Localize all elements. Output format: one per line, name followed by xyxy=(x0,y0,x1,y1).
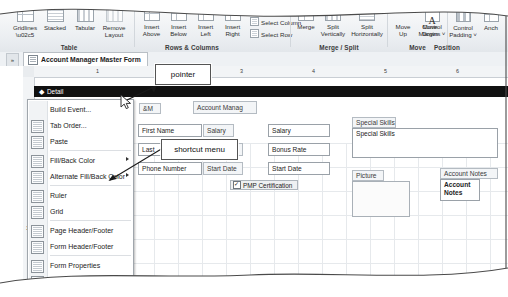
select-row-icon xyxy=(250,29,259,38)
select-layout-button[interactable]: Select Layout xyxy=(250,5,299,14)
context-menu-item-paste[interactable]: Paste xyxy=(28,133,133,149)
ribbon-separator xyxy=(387,5,388,47)
detail-section-label: Detail xyxy=(47,88,63,95)
submenu-arrow-icon xyxy=(126,173,129,177)
ribbon-separator xyxy=(447,5,448,47)
insert-left-icon xyxy=(198,9,214,21)
context-menu-separator xyxy=(50,150,131,151)
pmp-certification-checkbox[interactable]: PMP Certification xyxy=(230,180,298,190)
merge-icon xyxy=(298,9,314,21)
context-menu-item-page-header-footer[interactable]: Page Header/Footer xyxy=(28,222,133,238)
control-margins-icon: A xyxy=(425,9,440,22)
tab-order-icon xyxy=(31,120,44,133)
special-skills-label[interactable]: Special Skills xyxy=(352,117,396,128)
context-menu-item-grid[interactable]: Grid xyxy=(28,203,133,219)
page-header-footer-icon xyxy=(31,225,44,238)
gridlines-icon xyxy=(17,9,34,22)
context-menu-separator xyxy=(50,220,131,221)
paste-icon xyxy=(31,136,44,149)
control-margins-button[interactable]: A Control Margins ˅ xyxy=(417,9,447,37)
ribbon-group-rows-columns: Insert Above Insert Below Insert Left In… xyxy=(138,0,288,52)
split-vertically-button[interactable]: Split Vertically xyxy=(317,9,349,37)
remove-layout-button[interactable]: Remove Layout xyxy=(98,9,130,38)
insert-above-button[interactable]: Insert Above xyxy=(138,9,165,37)
horizontal-ruler[interactable]: 1 2 3 4 5 6 xyxy=(34,66,508,78)
insert-above-icon xyxy=(144,9,160,21)
insert-right-button[interactable]: Insert Right xyxy=(219,9,246,37)
control-padding-icon xyxy=(456,9,471,22)
mouse-pointer-icon xyxy=(120,94,134,110)
context-menu-item-tab-order[interactable]: Tab Order... xyxy=(28,117,133,133)
gridlines-dropdown-caret[interactable]: \u02c5 xyxy=(10,31,40,38)
select-layout-icon xyxy=(250,5,259,14)
fill-back-color-icon xyxy=(31,155,44,168)
form-design-icon xyxy=(28,55,38,65)
insert-below-button[interactable]: Insert Below xyxy=(165,9,192,37)
ribbon-group-title-merge-split: Merge / Split xyxy=(293,44,385,51)
context-menu-item-alternate-fill-back-color[interactable]: Alternate Fill/Back Color xyxy=(28,168,133,184)
account-notes-field[interactable]: Account Notes xyxy=(440,179,480,201)
bonus-rate-field[interactable]: Bonus Rate xyxy=(268,143,330,156)
ribbon-group-table: Gridlines \u02c5 Stacked Tabular Remove … xyxy=(8,0,130,52)
split-horizontally-button[interactable]: Split Horizontally xyxy=(348,9,386,37)
salary-field[interactable]: Salary xyxy=(268,124,330,137)
move-up-button[interactable]: Move Up xyxy=(390,9,416,37)
remove-layout-icon xyxy=(106,9,123,22)
form-header-footer-icon xyxy=(31,241,44,254)
ribbon-separator xyxy=(290,5,291,47)
detail-section-bar[interactable]: ◆ Detail xyxy=(34,86,508,97)
split-horizontally-icon xyxy=(359,9,375,21)
ribbon-arrange-tab: Gridlines \u02c5 Stacked Tabular Remove … xyxy=(0,0,508,52)
screenshot-root: Gridlines \u02c5 Stacked Tabular Remove … xyxy=(0,0,508,297)
shortcut-menu-callout: shortcut menu xyxy=(161,139,238,160)
insert-left-button[interactable]: Insert Left xyxy=(192,9,219,37)
context-menu-item-build-event[interactable]: Build Event... xyxy=(28,101,133,117)
ribbon-group-title-rows-columns: Rows & Columns xyxy=(138,44,246,51)
ribbon-separator xyxy=(134,5,135,47)
gridlines-button[interactable]: Gridlines \u02c5 xyxy=(10,9,40,38)
tabular-layout-icon xyxy=(77,9,94,22)
build-event-icon xyxy=(31,104,42,115)
context-menu-item-properties[interactable]: Properties xyxy=(28,273,133,289)
account-manager-id-label[interactable]: &M xyxy=(139,103,161,114)
account-notes-label[interactable]: Account Notes xyxy=(440,168,498,179)
first-name-label[interactable]: First Name xyxy=(138,124,202,137)
pmp-certification-label: PMP Certification xyxy=(243,182,292,189)
select-row-button[interactable]: Select Row xyxy=(250,29,292,38)
torn-paper-page: Gridlines \u02c5 Stacked Tabular Remove … xyxy=(0,0,508,297)
properties-icon xyxy=(31,276,44,289)
ruler-icon xyxy=(31,190,44,203)
split-vertically-icon xyxy=(325,9,341,21)
grid-icon xyxy=(31,206,44,219)
ribbon-group-title-position: Position xyxy=(417,44,477,51)
context-menu-item-form-header-footer[interactable]: Form Header/Footer xyxy=(28,238,133,254)
stacked-layout-icon xyxy=(47,9,64,22)
merge-button[interactable]: Merge xyxy=(293,9,319,30)
stacked-layout-button[interactable]: Stacked xyxy=(40,9,70,31)
document-tab-label: Account Manager Master Form xyxy=(41,56,141,63)
control-padding-button[interactable]: Control Padding ˅ xyxy=(449,9,477,38)
picture-frame[interactable] xyxy=(352,181,410,217)
start-date-label[interactable]: Start Date xyxy=(203,162,243,175)
anchoring-icon xyxy=(484,9,499,22)
account-manager-title-label[interactable]: Account Manag xyxy=(193,101,257,114)
context-menu-item-ruler[interactable]: Ruler xyxy=(28,187,133,203)
shutter-bar-expand-button[interactable]: » xyxy=(6,53,19,67)
anchoring-button[interactable]: Anch xyxy=(477,9,505,31)
picture-label[interactable]: Picture xyxy=(352,170,384,181)
checkbox-checked-icon[interactable] xyxy=(233,181,241,189)
ribbon-group-merge-split: Merge Split Vertically Split Horizontall… xyxy=(293,0,385,52)
context-menu-separator xyxy=(50,185,131,186)
special-skills-field[interactable]: Special Skills xyxy=(352,128,498,158)
insert-right-icon xyxy=(225,9,241,21)
start-date-field[interactable]: Start Date xyxy=(268,162,330,175)
context-menu-item-fill-back-color[interactable]: Fill/Back Color xyxy=(28,152,133,168)
phone-number-label[interactable]: Phone Number xyxy=(138,162,202,175)
shortcut-context-menu[interactable]: Build Event... Tab Order... Paste Fill/B… xyxy=(27,99,134,291)
tabular-layout-button[interactable]: Tabular xyxy=(70,9,100,31)
context-menu-item-form-properties[interactable]: Form Properties xyxy=(28,257,133,273)
salary-label[interactable]: Salary xyxy=(203,124,234,137)
document-tab-account-manager-master-form[interactable]: Account Manager Master Form xyxy=(23,52,148,66)
context-menu-separator xyxy=(50,255,131,256)
move-up-icon xyxy=(396,9,410,21)
